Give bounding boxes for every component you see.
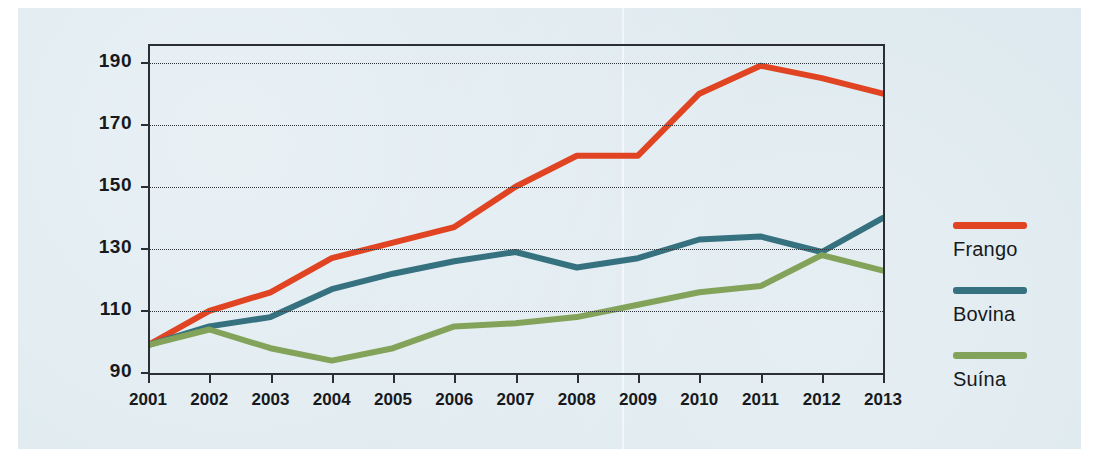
- legend-label-suina: Suína: [953, 368, 1083, 391]
- legend-swatch-frango: [953, 222, 1027, 229]
- gridline-110: [148, 311, 885, 312]
- y-tick-label-110: 110: [100, 298, 132, 320]
- gridline-190: [148, 63, 885, 64]
- chart-page: 90110130150170190 2001200220032004200520…: [0, 0, 1099, 460]
- legend-swatch-bovina: [953, 287, 1027, 294]
- x-tick-label-2013: 2013: [864, 390, 902, 410]
- chart-legend: Frango Bovina Suína: [953, 222, 1083, 417]
- x-tick-mark-2006: [454, 375, 456, 383]
- series-lines: [148, 44, 885, 375]
- x-tick-label-2007: 2007: [497, 390, 535, 410]
- legend-label-frango: Frango: [953, 238, 1083, 261]
- y-tick-mark-130: [141, 248, 148, 250]
- x-tick-label-2008: 2008: [558, 390, 596, 410]
- gridline-150: [148, 187, 885, 188]
- y-tick-mark-150: [141, 186, 148, 188]
- series-line-frango: [148, 66, 883, 345]
- y-tick-mark-170: [141, 124, 148, 126]
- y-axis: [148, 44, 150, 375]
- x-tick-mark-2008: [577, 375, 579, 383]
- y-tick-label-130: 130: [99, 236, 132, 258]
- x-tick-mark-2010: [699, 375, 701, 383]
- x-tick-mark-2013: [883, 375, 885, 383]
- x-tick-mark-2002: [209, 375, 211, 383]
- x-tick-label-2004: 2004: [313, 390, 351, 410]
- plot-right-border: [883, 44, 885, 375]
- y-tick-label-170: 170: [99, 112, 132, 134]
- y-tick-mark-110: [141, 310, 148, 312]
- x-tick-mark-2012: [822, 375, 824, 383]
- x-tick-mark-2007: [516, 375, 518, 383]
- x-tick-label-2011: 2011: [742, 390, 779, 410]
- y-tick-label-90: 90: [110, 360, 132, 382]
- legend-item-bovina[interactable]: Bovina: [953, 287, 1083, 326]
- x-tick-label-2005: 2005: [374, 390, 412, 410]
- x-tick-label-2006: 2006: [435, 390, 473, 410]
- gridline-130: [148, 249, 885, 250]
- series-line-suína: [148, 255, 883, 361]
- legend-swatch-suina: [953, 352, 1027, 359]
- y-tick-mark-90: [141, 372, 148, 374]
- x-tick-label-2001: 2001: [129, 390, 167, 410]
- x-tick-mark-2003: [271, 375, 273, 383]
- gridline-170: [148, 125, 885, 126]
- legend-label-bovina: Bovina: [953, 303, 1083, 326]
- plot-area: 90110130150170190 2001200220032004200520…: [148, 44, 885, 375]
- y-tick-label-150: 150: [99, 174, 132, 196]
- x-tick-label-2002: 2002: [190, 390, 228, 410]
- x-tick-mark-2001: [148, 375, 150, 383]
- y-tick-label-190: 190: [99, 50, 132, 72]
- y-tick-mark-190: [141, 62, 148, 64]
- x-tick-label-2003: 2003: [252, 390, 290, 410]
- x-tick-label-2010: 2010: [680, 390, 718, 410]
- x-tick-mark-2009: [638, 375, 640, 383]
- x-tick-label-2012: 2012: [803, 390, 841, 410]
- x-tick-mark-2011: [761, 375, 763, 383]
- legend-item-suina[interactable]: Suína: [953, 352, 1083, 391]
- plot-top-border: [148, 44, 885, 46]
- x-tick-mark-2005: [393, 375, 395, 383]
- x-tick-mark-2004: [332, 375, 334, 383]
- x-tick-label-2009: 2009: [619, 390, 657, 410]
- legend-item-frango[interactable]: Frango: [953, 222, 1083, 261]
